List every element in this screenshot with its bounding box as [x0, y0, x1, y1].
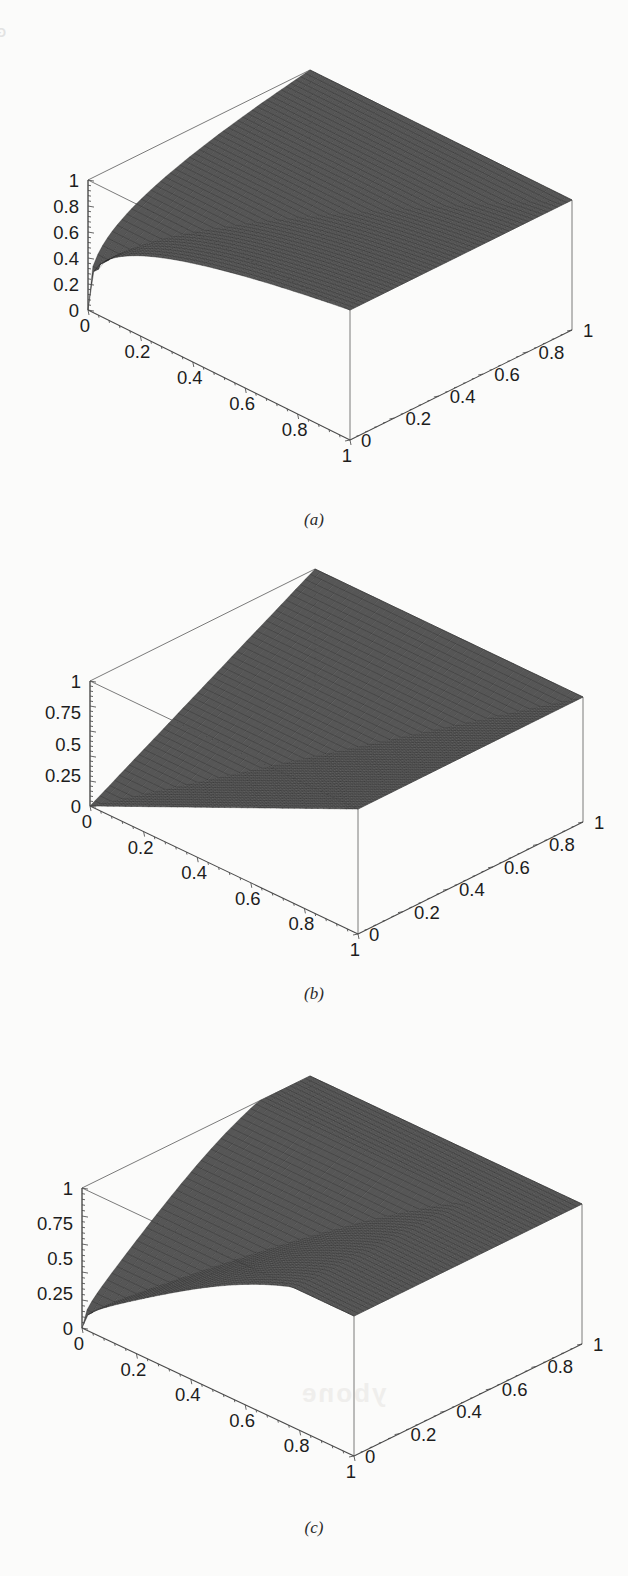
- y-tick-label: 0.4: [456, 1401, 482, 1422]
- y-tick-label: 0.8: [539, 342, 565, 363]
- z-tick-label: 0: [71, 796, 81, 817]
- y-tick-label: 0.8: [547, 1356, 573, 1377]
- x-tick-label: 1: [346, 1461, 356, 1482]
- z-tick-label: 0.8: [53, 196, 79, 217]
- z-tick-label: 0.25: [37, 1283, 73, 1304]
- y-tick-label: 0.6: [494, 364, 520, 385]
- y-tick-label: 0.6: [504, 857, 530, 878]
- z-tick-label: 0.75: [45, 702, 81, 723]
- x-tick-label: 0.2: [121, 1359, 147, 1380]
- x-tick-label: 0.2: [125, 341, 151, 362]
- figure-b: 10.750.50.25000.20.40.60.8100.20.40.60.8…: [0, 558, 628, 1004]
- figure-a: 10.80.60.40.2000.20.40.60.8100.20.40.60.…: [0, 48, 628, 530]
- z-tick-label: 0.5: [55, 734, 81, 755]
- x-tick-label: 1: [342, 445, 352, 466]
- x-tick-label: 1: [350, 939, 360, 960]
- x-tick-label: 0: [74, 1333, 84, 1354]
- surface-mesh: [90, 569, 583, 809]
- x-tick-label: 0: [80, 315, 90, 336]
- plot-a[interactable]: 10.80.60.40.2000.20.40.60.8100.20.40.60.…: [0, 48, 628, 498]
- y-tick-label: 0: [361, 430, 371, 451]
- x-tick-label: 0.8: [282, 419, 308, 440]
- x-tick-label: 0.4: [181, 862, 207, 883]
- x-tick-label: 0.2: [128, 837, 154, 858]
- x-tick-label: 0.4: [177, 367, 203, 388]
- y-tick-label: 0.8: [549, 834, 575, 855]
- x-tick-label: 0.4: [175, 1384, 201, 1405]
- x-tick-label: 0.6: [235, 888, 261, 909]
- z-tick-label: 0.5: [47, 1248, 73, 1269]
- y-tick-label: 0.2: [411, 1424, 437, 1445]
- caption-b: (b): [0, 984, 628, 1004]
- x-tick-label: 0.8: [289, 913, 315, 934]
- z-tick-label: 1: [69, 170, 79, 191]
- z-tick-label: 0: [69, 300, 79, 321]
- y-tick-label: 0: [369, 924, 379, 945]
- z-tick-label: 1: [63, 1178, 73, 1199]
- caption-a: (a): [0, 510, 628, 530]
- z-tick-label: 0.4: [53, 248, 79, 269]
- z-tick-label: 0.2: [53, 274, 79, 295]
- x-tick-label: 0: [82, 811, 92, 832]
- figure-c: 10.750.50.25000.20.40.60.8100.20.40.60.8…: [0, 1040, 628, 1538]
- z-tick-label: 0.75: [37, 1213, 73, 1234]
- y-tick-label: 0.2: [414, 902, 440, 923]
- x-axis: [88, 310, 350, 440]
- x-axis: [90, 806, 358, 934]
- surface-mesh: [82, 1076, 582, 1328]
- plot-b[interactable]: 10.750.50.25000.20.40.60.8100.20.40.60.8…: [0, 558, 628, 978]
- y-tick-label: 1: [583, 320, 593, 341]
- y-tick-label: 0.4: [459, 879, 485, 900]
- caption-c: (c): [0, 1518, 628, 1538]
- z-tick-label: 0.25: [45, 765, 81, 786]
- plot-c[interactable]: 10.750.50.25000.20.40.60.8100.20.40.60.8…: [0, 1040, 628, 1510]
- y-tick-label: 0.4: [450, 386, 476, 407]
- y-tick-label: 1: [594, 812, 604, 833]
- z-tick-label: 0: [63, 1318, 73, 1339]
- y-tick-label: 1: [593, 1334, 603, 1355]
- z-tick-label: 1: [71, 671, 81, 692]
- x-tick-label: 0.8: [284, 1435, 310, 1456]
- bleed-through-header: GENERALIZED SHANNON ENTR: [0, 26, 6, 40]
- x-tick-label: 0.6: [229, 393, 255, 414]
- y-tick-label: 0.6: [502, 1379, 528, 1400]
- y-tick-label: 0.2: [405, 408, 431, 429]
- surface-mesh: [88, 70, 572, 310]
- y-tick-label: 0: [365, 1446, 375, 1467]
- z-tick-label: 0.6: [53, 222, 79, 243]
- x-axis: [82, 1328, 354, 1456]
- x-tick-label: 0.6: [229, 1410, 255, 1431]
